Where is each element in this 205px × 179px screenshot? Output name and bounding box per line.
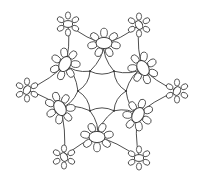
junction-dot — [113, 70, 115, 72]
small-flower — [123, 9, 156, 42]
petal-shape — [24, 95, 29, 102]
flower-center — [89, 131, 105, 142]
ring-arc — [90, 108, 114, 111]
ring-arc — [114, 91, 126, 111]
ring-arc — [114, 71, 126, 91]
junction-dot — [113, 110, 115, 112]
ring-arc — [78, 71, 90, 91]
large-flower — [80, 122, 114, 152]
junction-dot — [89, 110, 91, 112]
petal-shape — [67, 157, 76, 165]
petal-shape — [94, 143, 101, 152]
petal-shape — [52, 157, 61, 165]
petal-shape — [67, 149, 76, 157]
petal-shape — [61, 145, 66, 152]
petal-shape — [15, 82, 24, 90]
large-flower — [122, 46, 165, 90]
petal-shape — [52, 149, 61, 157]
flower-center — [63, 21, 72, 28]
flower-center — [96, 37, 112, 48]
petal-shape — [123, 111, 133, 118]
petal-shape — [136, 163, 141, 170]
large-flower — [117, 93, 160, 137]
petal-shape — [136, 30, 141, 37]
petal-shape — [136, 13, 141, 20]
petal-shape — [65, 29, 70, 36]
petal-shape — [24, 78, 29, 85]
junction-dot — [77, 90, 79, 92]
junction-dot — [125, 90, 127, 92]
small-flower — [48, 141, 81, 174]
flower-center — [134, 155, 143, 162]
petal-shape — [66, 104, 76, 111]
petal-shape — [127, 17, 136, 25]
large-flower — [39, 86, 82, 130]
petal-shape — [101, 28, 108, 37]
ring-arc — [90, 71, 114, 74]
petal-shape — [128, 64, 138, 71]
ring-arc — [78, 91, 90, 111]
petal-shape — [180, 91, 189, 99]
petal-shape — [61, 162, 66, 169]
petal-shape — [15, 90, 24, 98]
lace-pattern-graphic — [0, 0, 205, 179]
petal-shape — [180, 83, 189, 91]
petal-shape — [142, 17, 151, 25]
petal-shape — [142, 25, 151, 33]
petal-shape — [71, 60, 81, 67]
petal-shape — [30, 82, 39, 90]
small-flower — [56, 12, 80, 36]
petal-shape — [174, 79, 179, 86]
snowflake-flower-illustration — [0, 0, 205, 179]
petal-shape — [65, 12, 70, 19]
large-flower — [44, 42, 87, 86]
small-flower — [11, 74, 44, 107]
junction-dot — [89, 70, 91, 72]
petal-shape — [136, 146, 141, 153]
small-flower — [161, 75, 194, 108]
small-flower — [127, 146, 151, 170]
petal-shape — [174, 96, 179, 103]
